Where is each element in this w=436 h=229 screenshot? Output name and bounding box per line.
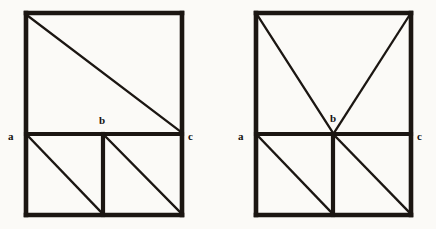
vertex-label-a: a (8, 131, 14, 142)
lower-left-cell-diagonal (29, 137, 101, 212)
figure-canvas: abcabc (0, 0, 436, 229)
lower-left-cell-diagonal (259, 137, 331, 212)
lower-right-cell-diagonal (336, 137, 409, 212)
upper-right-diagonal-to-b (334, 16, 409, 133)
upper-left-diagonal-to-b (258, 16, 333, 133)
vertex-label-c: c (417, 131, 422, 142)
vertex-label-b: b (330, 113, 336, 124)
vertex-label-c: c (188, 131, 193, 142)
vertex-label-b: b (99, 115, 105, 126)
geometry-figures-svg (0, 0, 436, 229)
lower-right-cell-diagonal (106, 137, 180, 212)
vertex-label-a: a (238, 131, 244, 142)
